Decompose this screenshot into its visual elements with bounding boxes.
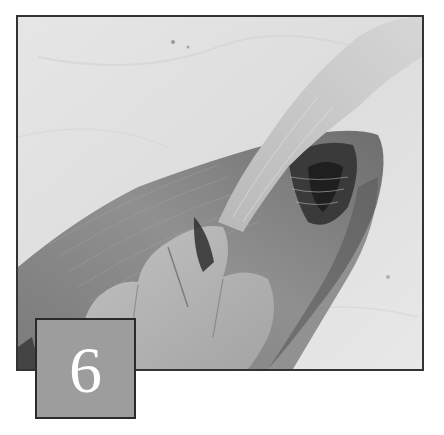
step-number: 6 [69,337,102,403]
step-number-badge: 6 [35,318,136,419]
fish-filleting-illustration [18,17,422,369]
